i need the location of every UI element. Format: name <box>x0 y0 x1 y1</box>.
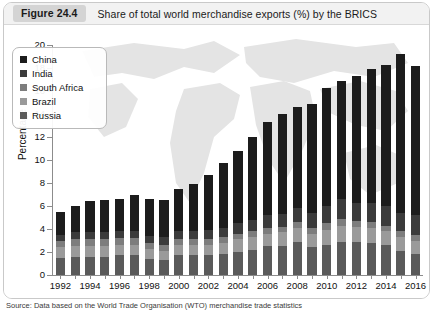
x-tick-mark <box>60 275 61 279</box>
bar-2015[interactable] <box>396 54 405 275</box>
y-tick: 12 <box>4 137 52 138</box>
bar-segment-south-africa <box>85 239 94 246</box>
bar-1996[interactable] <box>115 199 124 275</box>
bar-segment-russia <box>337 242 346 275</box>
bar-segment-china <box>100 200 109 232</box>
bar-segment-south-africa <box>337 219 346 226</box>
bar-2002[interactable] <box>204 175 213 275</box>
bar-2001[interactable] <box>189 184 198 275</box>
bar-2005[interactable] <box>248 137 257 275</box>
bar-segment-russia <box>85 257 94 275</box>
bar-segment-russia <box>367 243 376 275</box>
bar-2011[interactable] <box>337 81 346 275</box>
bar-segment-russia <box>174 255 183 275</box>
bar-1993[interactable] <box>71 206 80 275</box>
bar-1997[interactable] <box>130 195 139 275</box>
legend-item-south-africa[interactable]: South Africa <box>20 81 100 94</box>
bar-segment-brazil <box>85 246 94 256</box>
bar-segment-china <box>204 175 213 230</box>
bar-segment-india <box>115 231 124 238</box>
x-tick-mark <box>149 275 150 279</box>
bar-segment-china <box>263 122 272 215</box>
bar-1995[interactable] <box>100 200 109 275</box>
y-tick: 4 <box>4 229 52 230</box>
bar-2000[interactable] <box>174 189 183 275</box>
legend-item-label: South Africa <box>32 82 83 93</box>
x-tick-mark <box>75 275 76 279</box>
x-tick-mark <box>253 275 254 279</box>
y-tick-label: 12 <box>34 130 45 143</box>
bar-segment-india <box>248 220 257 232</box>
y-tick-label: 0 <box>40 268 45 281</box>
bar-segment-india <box>145 236 154 243</box>
legend-swatch-icon <box>20 56 27 63</box>
bar-segment-russia <box>204 255 213 275</box>
y-tick-mark <box>47 183 52 184</box>
y-tick-label: 2 <box>40 245 45 258</box>
bar-segment-russia <box>145 259 154 275</box>
bar-segment-russia <box>396 251 405 275</box>
y-tick-mark <box>47 229 52 230</box>
legend-item-china[interactable]: China <box>20 53 100 66</box>
bar-segment-south-africa <box>130 238 139 245</box>
bar-segment-south-africa <box>100 239 109 246</box>
chart-plot-area: Percentage 02468101214161820 19921994199… <box>4 25 430 299</box>
bar-1998[interactable] <box>145 199 154 275</box>
bar-series-container <box>53 45 423 275</box>
x-tick-mark <box>90 275 91 279</box>
bar-2008[interactable] <box>293 107 302 275</box>
bar-segment-russia <box>115 255 124 275</box>
bar-segment-china <box>159 200 168 237</box>
bar-segment-russia <box>219 254 228 275</box>
bar-2003[interactable] <box>219 163 228 275</box>
x-tick-mark <box>164 275 165 279</box>
x-axis-ticks: 1992199419961998200020022004200620082010… <box>53 275 423 297</box>
bar-2010[interactable] <box>322 88 331 275</box>
bar-segment-brazil <box>337 226 346 242</box>
bar-2012[interactable] <box>352 76 361 275</box>
bar-1992[interactable] <box>56 212 65 275</box>
bar-1999[interactable] <box>159 200 168 275</box>
x-tick-mark <box>268 275 269 279</box>
bar-segment-russia <box>233 252 242 275</box>
legend-item-brazil[interactable]: Brazil <box>20 95 100 108</box>
y-tick-mark <box>47 275 52 276</box>
bar-segment-russia <box>100 257 109 275</box>
bar-segment-india <box>130 231 139 238</box>
bar-1994[interactable] <box>85 201 94 275</box>
x-tick-mark <box>120 275 121 279</box>
y-tick-label: 4 <box>40 222 45 235</box>
legend-item-india[interactable]: India <box>20 67 100 80</box>
bar-segment-brazil <box>322 230 331 245</box>
bar-segment-russia <box>263 246 272 275</box>
bar-segment-brazil <box>204 245 213 255</box>
bar-2009[interactable] <box>307 104 316 275</box>
bar-segment-india <box>352 203 361 221</box>
x-tick-label: 2012 <box>346 280 367 291</box>
bar-2014[interactable] <box>381 65 390 275</box>
bar-segment-india <box>189 231 198 239</box>
x-tick-mark <box>297 275 298 279</box>
figure-card: Figure 24.4 Share of total world merchan… <box>3 2 430 299</box>
bar-2016[interactable] <box>411 66 420 275</box>
x-tick-mark <box>238 275 239 279</box>
x-tick-mark <box>312 275 313 279</box>
bar-segment-brazil <box>71 246 80 256</box>
bar-2004[interactable] <box>233 151 242 275</box>
x-tick-mark <box>371 275 372 279</box>
legend-item-russia[interactable]: Russia <box>20 109 100 122</box>
x-tick-label: 1994 <box>79 280 100 291</box>
bar-segment-russia <box>411 254 420 275</box>
bar-2013[interactable] <box>367 69 376 275</box>
x-tick-mark <box>194 275 195 279</box>
bar-segment-india <box>293 208 302 222</box>
legend-item-label: Brazil <box>32 96 56 107</box>
chart-legend: ChinaIndiaSouth AfricaBrazilRussia <box>12 47 107 129</box>
bar-segment-south-africa <box>322 223 331 230</box>
bar-segment-brazil <box>145 249 154 259</box>
bar-segment-china <box>174 189 183 232</box>
bar-2007[interactable] <box>278 114 287 275</box>
bar-2006[interactable] <box>263 122 272 275</box>
bar-segment-brazil <box>278 232 287 246</box>
x-tick-mark <box>179 275 180 279</box>
